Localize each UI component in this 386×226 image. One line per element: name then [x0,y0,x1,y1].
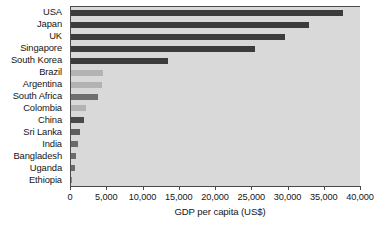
bar-row [71,91,360,103]
bar [71,141,78,147]
x-tick-label: 5,000 [95,191,118,203]
bar-row [71,19,360,31]
x-tick-label: 0 [67,191,72,203]
x-tick-mark [106,186,107,190]
category-label: India [0,138,66,150]
x-tick-label: 35,000 [310,191,338,203]
category-label: Singapore [0,42,66,54]
x-tick-label: 25,000 [237,191,265,203]
x-tick-mark [70,186,71,190]
category-label: Ethiopia [0,174,66,186]
category-label: South Korea [0,54,66,66]
bar [71,10,343,16]
category-label: Sri Lanka [0,126,66,138]
bar [71,82,102,88]
bar [71,70,103,76]
bar-row [71,126,360,138]
bar-row [71,174,360,186]
x-tick-mark [215,186,216,190]
bar [71,165,75,171]
category-label: China [0,114,66,126]
bar-chart: USAJapanUKSingaporeSouth KoreaBrazilArge… [0,0,386,226]
bar [71,58,168,64]
bar-row [71,162,360,174]
bar [71,129,80,135]
x-tick-label: 15,000 [165,191,193,203]
bar-row [71,67,360,79]
x-tick-label: 30,000 [274,191,302,203]
x-tick-mark [143,186,144,190]
x-tick-mark [324,186,325,190]
category-label: Japan [0,18,66,30]
category-label: Colombia [0,102,66,114]
category-label: Uganda [0,162,66,174]
category-axis: USAJapanUKSingaporeSouth KoreaBrazilArge… [0,6,66,186]
category-label: Argentina [0,78,66,90]
category-label: Bangladesh [0,150,66,162]
bar [71,177,72,183]
category-label: Brazil [0,66,66,78]
x-tick-mark [360,186,361,190]
bar-row [71,114,360,126]
bar-row [71,103,360,115]
x-axis-tick-labels: 05,00010,00015,00020,00025,00030,00035,0… [70,191,360,204]
bar-row [71,43,360,55]
x-tick-label: 20,000 [201,191,229,203]
x-axis-title: GDP per capita (US$) [70,206,370,218]
x-tick-label: 40,000 [346,191,374,203]
bar [71,46,255,52]
bars-layer [71,7,360,186]
bar-row [71,7,360,19]
x-tick-label: 10,000 [129,191,157,203]
x-tick-mark [251,186,252,190]
category-label: UK [0,30,66,42]
bar [71,34,285,40]
bar [71,105,86,111]
bar [71,94,98,100]
bar-row [71,150,360,162]
bar-row [71,79,360,91]
bar-row [71,55,360,67]
x-tick-mark [288,186,289,190]
category-label: USA [0,6,66,18]
bar-row [71,31,360,43]
category-label: South Africa [0,90,66,102]
bar [71,22,309,28]
bar-row [71,138,360,150]
bar [71,117,84,123]
plot-area [70,6,360,186]
x-tick-mark [179,186,180,190]
bar [71,153,76,159]
